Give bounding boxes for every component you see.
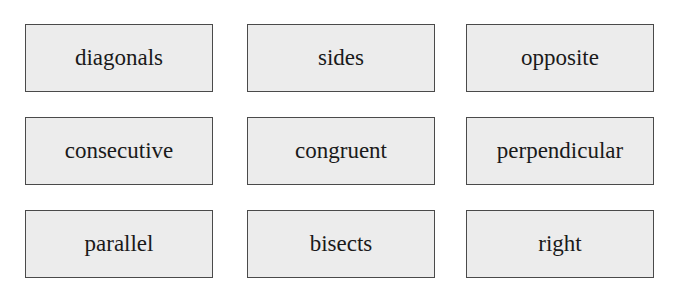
word-label: diagonals bbox=[75, 45, 163, 71]
word-label: bisects bbox=[310, 231, 373, 257]
word-card-right[interactable]: right bbox=[466, 210, 654, 278]
word-card-consecutive[interactable]: consecutive bbox=[25, 117, 213, 185]
word-card-diagonals[interactable]: diagonals bbox=[25, 24, 213, 92]
word-label: congruent bbox=[295, 138, 387, 164]
word-card-parallel[interactable]: parallel bbox=[25, 210, 213, 278]
word-label: parallel bbox=[85, 231, 154, 257]
word-label: perpendicular bbox=[497, 138, 623, 164]
word-label: opposite bbox=[521, 45, 599, 71]
word-card-bisects[interactable]: bisects bbox=[247, 210, 435, 278]
word-card-opposite[interactable]: opposite bbox=[466, 24, 654, 92]
word-card-perpendicular[interactable]: perpendicular bbox=[466, 117, 654, 185]
word-label: consecutive bbox=[65, 138, 174, 164]
word-label: sides bbox=[318, 45, 364, 71]
word-label: right bbox=[538, 231, 581, 257]
word-card-sides[interactable]: sides bbox=[247, 24, 435, 92]
word-card-congruent[interactable]: congruent bbox=[247, 117, 435, 185]
